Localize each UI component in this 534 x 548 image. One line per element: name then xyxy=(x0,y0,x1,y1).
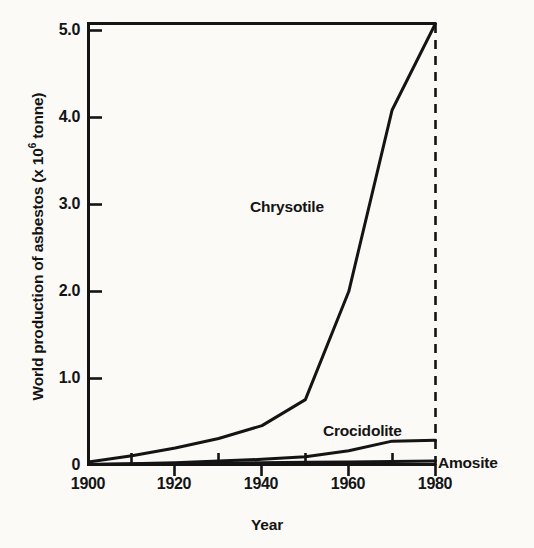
axes-layer xyxy=(87,22,436,466)
plot-area xyxy=(0,0,534,548)
asbestos-production-chart: World production of asbestos (x 106 tonn… xyxy=(0,0,534,548)
y-tick-marks xyxy=(88,31,102,379)
series-line-chrysotile xyxy=(89,24,436,462)
